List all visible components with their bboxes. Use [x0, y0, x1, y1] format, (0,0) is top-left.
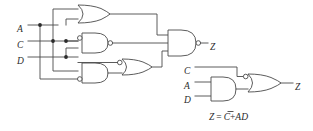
input-bubble-h2 [243, 74, 248, 79]
gate-and-g3 [78, 63, 109, 83]
output-bubble-g2 [108, 41, 113, 46]
input-label-D-left: D [17, 50, 24, 68]
wire-C-to-or [195, 67, 246, 77]
rail-A-up [66, 19, 78, 25]
input-bubble-g2 [78, 36, 83, 41]
gate-and-h1 [211, 77, 236, 101]
output-label-Z-right: Z [295, 76, 300, 94]
junction-dot [64, 39, 68, 43]
junction-dot [64, 55, 68, 59]
left-circuit [28, 5, 208, 83]
input-label-D-right: D [184, 89, 191, 107]
output-bubble-g5 [196, 41, 201, 46]
input-bubble-g3 [78, 77, 83, 82]
circuit-canvas [0, 0, 313, 131]
wire-g1-out-to-g5 [110, 14, 168, 35]
boolean-equation: Z=C+AD [209, 106, 248, 124]
gate-or-h2 [243, 74, 281, 92]
output-label-Z-left: Z [210, 36, 215, 54]
junction-dot [38, 23, 42, 27]
input-bubble-g4 [118, 60, 123, 65]
rail-D-up [66, 48, 78, 57]
junction-dot [51, 39, 55, 43]
equation-equals: = [214, 112, 223, 122]
gate-or-g1 [78, 5, 110, 23]
right-circuit [195, 67, 293, 112]
logic-circuit-figure: A C D Z C A D Z Z=C+AD [0, 0, 313, 131]
gate-nand-g2 [78, 33, 113, 53]
wire-g4-out-to-g5 [152, 51, 168, 67]
gate-nand-g5 [168, 30, 201, 56]
equation-term2: AD [235, 112, 248, 122]
gate-or-g4 [118, 59, 153, 75]
